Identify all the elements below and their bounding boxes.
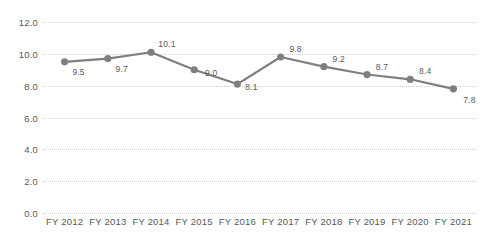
- data-point-label: 9.7: [116, 64, 128, 74]
- plot-area: 9.59.710.19.08.19.89.28.78.47.8: [43, 22, 475, 213]
- data-point-marker: [363, 71, 370, 78]
- data-point-label: 8.4: [419, 66, 431, 76]
- y-axis-tick-label: 8.0: [2, 80, 38, 91]
- data-point-label: 7.8: [463, 95, 475, 105]
- y-axis-tick-label: 6.0: [2, 112, 38, 123]
- x-axis-tick-label: FY 2013: [89, 216, 126, 227]
- x-axis-tick-label: FY 2012: [46, 216, 83, 227]
- data-point-marker: [61, 58, 68, 65]
- data-point-marker: [320, 63, 327, 70]
- data-point-label: 9.8: [289, 44, 301, 54]
- data-point-marker: [147, 49, 154, 56]
- data-point-marker: [407, 76, 414, 83]
- y-axis-tick-label: 12.0: [2, 17, 38, 28]
- data-point-marker: [450, 85, 457, 92]
- x-axis-tick-label: FY 2014: [132, 216, 169, 227]
- data-point-marker: [234, 80, 241, 87]
- x-axis-tick-label: FY 2018: [305, 216, 342, 227]
- data-point-marker: [277, 53, 284, 60]
- data-point-label: 9.0: [205, 68, 217, 78]
- x-axis: FY 2012FY 2013FY 2014FY 2015FY 2016FY 20…: [43, 216, 475, 236]
- x-axis-tick-label: FY 2019: [348, 216, 385, 227]
- gridline: [43, 213, 475, 214]
- data-point-label: 10.1: [158, 39, 175, 49]
- x-axis-tick-label: FY 2016: [219, 216, 256, 227]
- data-point-label: 9.5: [72, 67, 84, 77]
- data-point-label: 9.2: [333, 54, 345, 64]
- data-point-marker: [191, 66, 198, 73]
- line-chart: 12.010.08.06.04.02.00.0 9.59.710.19.08.1…: [0, 0, 481, 242]
- series-line: [43, 22, 475, 213]
- x-axis-tick-label: FY 2020: [392, 216, 429, 227]
- x-axis-tick-label: FY 2017: [262, 216, 299, 227]
- y-axis-tick-label: 0.0: [2, 208, 38, 219]
- data-point-label: 8.1: [245, 82, 257, 92]
- x-axis-tick-label: FY 2021: [435, 216, 472, 227]
- y-axis-tick-label: 2.0: [2, 176, 38, 187]
- y-axis: 12.010.08.06.04.02.00.0: [0, 22, 38, 213]
- data-point-marker: [104, 55, 111, 62]
- data-point-label: 8.7: [376, 62, 388, 72]
- y-axis-tick-label: 10.0: [2, 48, 38, 59]
- y-axis-tick-label: 4.0: [2, 144, 38, 155]
- x-axis-tick-label: FY 2015: [176, 216, 213, 227]
